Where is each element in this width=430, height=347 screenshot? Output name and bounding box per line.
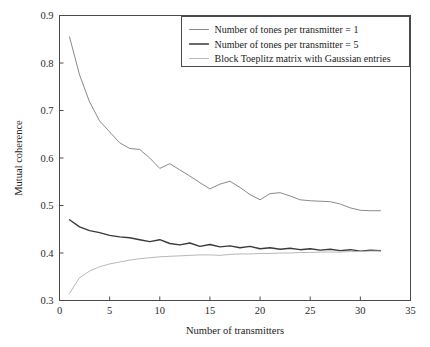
- y-tick-label: 0.6: [40, 153, 53, 164]
- x-tick-label: 20: [255, 305, 266, 316]
- y-tick-label: 0.3: [40, 295, 53, 306]
- y-tick-label: 0.7: [40, 105, 53, 116]
- y-axis-title: Mutual coherence: [13, 120, 24, 196]
- y-tick-label: 0.5: [40, 200, 53, 211]
- series-line-2: [70, 220, 381, 251]
- legend-label-2: Number of tones per transmitter = 5: [215, 39, 359, 50]
- series-line-3: [70, 251, 381, 293]
- x-tick-label: 35: [405, 305, 416, 316]
- line-chart: 0.30.40.50.60.70.80.905101520253035Numbe…: [0, 0, 430, 347]
- x-axis-title: Number of transmitters: [186, 325, 284, 336]
- x-tick-label: 25: [305, 305, 316, 316]
- y-tick-label: 0.9: [40, 10, 53, 21]
- x-tick-label: 10: [155, 305, 166, 316]
- y-tick-label: 0.8: [40, 58, 53, 69]
- legend-label-1: Number of tones per transmitter = 1: [215, 24, 359, 35]
- figure: 0.30.40.50.60.70.80.905101520253035Numbe…: [0, 0, 430, 347]
- x-tick-label: 0: [57, 305, 62, 316]
- y-tick-label: 0.4: [40, 248, 54, 259]
- x-tick-label: 15: [205, 305, 216, 316]
- x-tick-label: 5: [107, 305, 112, 316]
- legend-label-3: Block Toeplitz matrix with Gaussian entr…: [215, 53, 391, 64]
- x-tick-label: 30: [355, 305, 366, 316]
